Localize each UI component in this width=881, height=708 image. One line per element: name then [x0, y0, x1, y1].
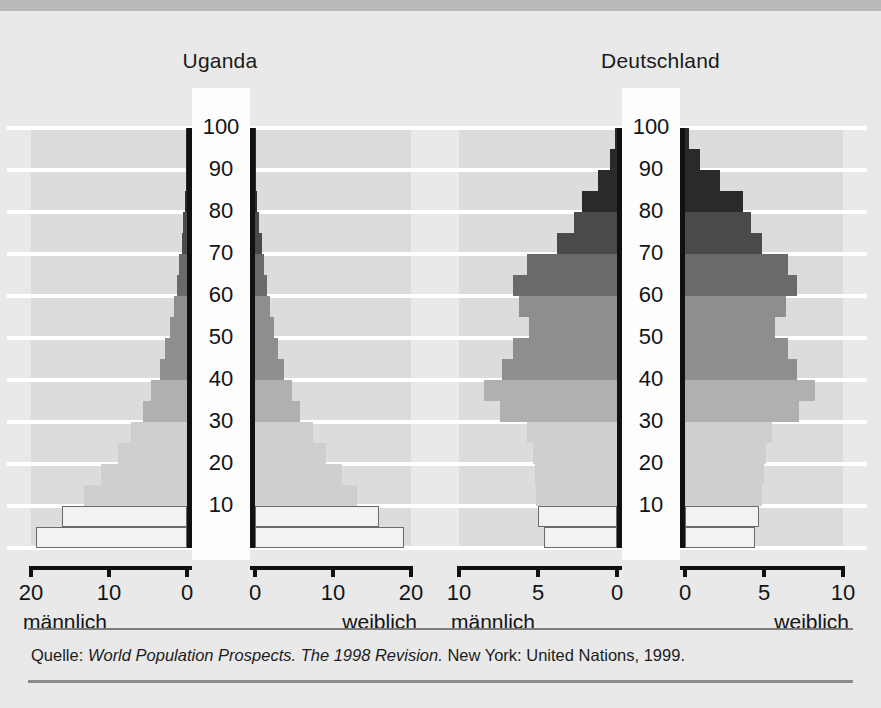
bar-uganda-right-65-69: [255, 254, 264, 275]
bar-deutschland-left-0-4: [544, 527, 617, 548]
bar-uganda-left-65-69: [179, 254, 187, 275]
value-tick-female-10: [331, 566, 335, 577]
bar-uganda-right-35-39: [255, 380, 292, 401]
bar-deutschland-left-40-44: [502, 359, 617, 380]
bar-deutschland-left-75-79: [574, 212, 617, 233]
source-rule-bottom: [28, 680, 853, 683]
bar-deutschland-left-50-54: [529, 317, 617, 338]
gridline: [7, 210, 192, 214]
bar-uganda-right-55-59: [255, 296, 270, 317]
bar-deutschland-left-55-59: [519, 296, 617, 317]
gridline: [7, 294, 192, 298]
value-tick-female-10: [841, 566, 845, 577]
age-tick-50: 50: [622, 324, 680, 350]
age-tick-30: 30: [192, 408, 250, 434]
value-tick-female-0: [253, 566, 257, 577]
bar-uganda-left-50-54: [170, 317, 187, 338]
bar-uganda-left-25-29: [131, 422, 187, 443]
bar-uganda-left-30-34: [143, 401, 187, 422]
bar-uganda-right-45-49: [255, 338, 278, 359]
bar-deutschland-right-85-89: [685, 170, 720, 191]
value-tick-label-male-5: 5: [508, 580, 568, 606]
value-tick-label-female-0: 0: [225, 580, 285, 606]
bar-uganda-left-45-49: [165, 338, 187, 359]
age-tick-20: 20: [622, 450, 680, 476]
age-tick-10: 10: [192, 492, 250, 518]
bar-uganda-right-40-44: [255, 359, 284, 380]
age-tick-70: 70: [622, 240, 680, 266]
top-banner-strip: [0, 0, 881, 11]
age-tick-80: 80: [622, 198, 680, 224]
bar-uganda-right-70-74: [255, 233, 262, 254]
bar-uganda-right-50-54: [255, 317, 274, 338]
value-tick-label-female-10: 10: [813, 580, 873, 606]
value-tick-label-female-5: 5: [734, 580, 794, 606]
bar-deutschland-right-50-54: [685, 317, 775, 338]
bar-deutschland-right-55-59: [685, 296, 786, 317]
bar-deutschland-right-40-44: [685, 359, 797, 380]
value-tick-label-male-10: 10: [429, 580, 489, 606]
value-tick-male-0: [185, 566, 189, 577]
panel-uganda: Uganda 1009080706050403020102010001020mä…: [0, 11, 440, 611]
age-tick-90: 90: [192, 156, 250, 182]
age-tick-40: 40: [192, 366, 250, 392]
bar-deutschland-left-65-69: [527, 254, 617, 275]
bar-uganda-right-95-99: [255, 128, 256, 149]
value-tick-label-male-0: 0: [587, 580, 647, 606]
population-pyramid-figure: Uganda 1009080706050403020102010001020mä…: [0, 11, 881, 611]
bar-deutschland-right-80-84: [685, 191, 743, 212]
age-tick-40: 40: [622, 366, 680, 392]
gridline: [250, 126, 435, 130]
bar-deutschland-right-70-74: [685, 233, 762, 254]
value-tick-male-0: [615, 566, 619, 577]
bar-uganda-right-30-34: [255, 401, 300, 422]
gridline: [7, 252, 192, 256]
source-citation-text: Quelle: World Population Prospects. The …: [31, 646, 685, 665]
source-citation-block: Quelle: World Population Prospects. The …: [0, 628, 881, 708]
gridline: [680, 126, 867, 130]
age-tick-100: 100: [192, 114, 250, 140]
bar-uganda-left-0-4: [36, 527, 187, 548]
panel-title-uganda: Uganda: [0, 49, 440, 73]
bar-deutschland-left-70-74: [557, 233, 617, 254]
bar-deutschland-right-25-29: [685, 422, 772, 443]
age-tick-50: 50: [192, 324, 250, 350]
bar-deutschland-right-10-14: [685, 485, 762, 506]
age-tick-20: 20: [192, 450, 250, 476]
bar-uganda-left-55-59: [174, 296, 187, 317]
age-tick-30: 30: [622, 408, 680, 434]
axis-baseline-male: [187, 128, 192, 548]
gridline: [7, 126, 192, 130]
panel-title-germany: Deutschland: [440, 49, 881, 73]
value-tick-label-male-20: 20: [1, 580, 61, 606]
bar-deutschland-left-30-34: [500, 401, 617, 422]
value-tick-male-10: [107, 566, 111, 577]
bar-uganda-left-15-19: [101, 464, 187, 485]
bar-deutschland-right-20-24: [685, 443, 766, 464]
gridline: [250, 252, 435, 256]
bar-uganda-right-5-9: [255, 506, 379, 527]
bar-uganda-left-10-14: [84, 485, 187, 506]
value-tick-label-male-10: 10: [79, 580, 139, 606]
bar-deutschland-left-5-9: [538, 506, 617, 527]
value-tick-label-female-10: 10: [303, 580, 363, 606]
bar-deutschland-right-5-9: [685, 506, 759, 527]
axis-baseline-male: [617, 128, 622, 548]
source-title-italic: World Population Prospects. The 1998 Rev…: [88, 646, 443, 664]
age-tick-100: 100: [622, 114, 680, 140]
bar-deutschland-right-30-34: [685, 401, 799, 422]
gridline: [250, 294, 435, 298]
bar-uganda-right-85-89: [255, 170, 256, 191]
axis-baseline-female: [680, 128, 685, 548]
bar-deutschland-right-90-94: [685, 149, 700, 170]
age-tick-70: 70: [192, 240, 250, 266]
value-tick-female-20: [409, 566, 413, 577]
age-tick-60: 60: [622, 282, 680, 308]
bar-uganda-left-5-9: [62, 506, 187, 527]
bar-deutschland-left-10-14: [536, 485, 617, 506]
axis-baseline-female: [250, 128, 255, 548]
age-tick-90: 90: [622, 156, 680, 182]
bar-deutschland-left-90-94: [610, 149, 617, 170]
source-prefix: Quelle:: [31, 646, 83, 664]
bar-deutschland-right-95-99: [685, 128, 689, 149]
